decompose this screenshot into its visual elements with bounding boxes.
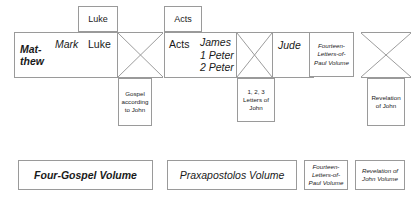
x-cross-icon — [237, 33, 272, 77]
gospel-matthew-line2: thew — [20, 55, 54, 68]
gospel-luke-label: Luke — [88, 38, 111, 50]
x-cross-icon — [361, 33, 411, 77]
volume-four-gospel-label: Four-Gospel Volume — [34, 169, 137, 182]
letters-of-john-label: 1, 2, 3 Letters of John — [240, 88, 272, 113]
gospel-mark: Mark — [55, 38, 85, 52]
catholic-letter-1peter: 1 Peter — [200, 49, 240, 62]
praxapostolos-acts-label: Acts — [169, 38, 189, 50]
jude-box: Jude — [272, 32, 314, 78]
tab-acts-label: Acts — [165, 7, 201, 31]
catholic-letter-james: James — [200, 36, 240, 49]
volume-praxapostolos: Praxapostolos Volume — [167, 160, 297, 190]
gospel-john-box: Gospel according to John — [118, 78, 152, 126]
praxapostolos-acts: Acts — [169, 38, 197, 52]
volume-paul: Fourteen-Letters-of-Paul Volume — [304, 160, 348, 190]
gospel-matthew-line1: Mat- — [20, 43, 54, 56]
catholic-letter-2peter: 2 Peter — [200, 61, 240, 74]
volume-four-gospel: Four-Gospel Volume — [18, 160, 153, 190]
praxapostolos-fold-x-box — [237, 32, 272, 78]
letters-of-john-box: 1, 2, 3 Letters of John — [237, 78, 275, 122]
x-cross-icon — [118, 33, 163, 77]
revelation-label: Revelation of John — [370, 94, 402, 110]
tab-luke: Luke — [78, 6, 118, 32]
volume-paul-label: Fourteen-Letters-of-Paul Volume — [307, 163, 345, 188]
gospel-luke: Luke — [88, 38, 118, 52]
gospel-mark-label: Mark — [55, 38, 78, 50]
gospel-matthew: Mat- thew — [20, 34, 54, 76]
catholic-letters-group: James 1 Peter 2 Peter — [200, 34, 240, 76]
paul-volume-top-label: Fourteen-Letters-of-Paul Volume — [312, 42, 351, 67]
revelation-fold-x-box — [361, 32, 411, 78]
volume-revelation-label: Revelation of John Volume — [358, 167, 402, 183]
gospel-john-label: Gospel according to John — [121, 90, 149, 115]
diagram-canvas: Luke Acts Mat- thew Mark Luke Gospel acc… — [0, 0, 415, 204]
tab-acts: Acts — [164, 6, 202, 32]
jude-label: Jude — [278, 39, 301, 52]
gospel-fold-x-box — [118, 32, 163, 78]
volume-revelation: Revelation of John Volume — [355, 160, 405, 190]
volume-praxapostolos-label: Praxapostolos Volume — [180, 169, 285, 182]
tab-luke-label: Luke — [79, 7, 117, 31]
paul-volume-top-box: Fourteen-Letters-of-Paul Volume — [309, 32, 354, 77]
revelation-box: Revelation of John — [367, 78, 405, 126]
